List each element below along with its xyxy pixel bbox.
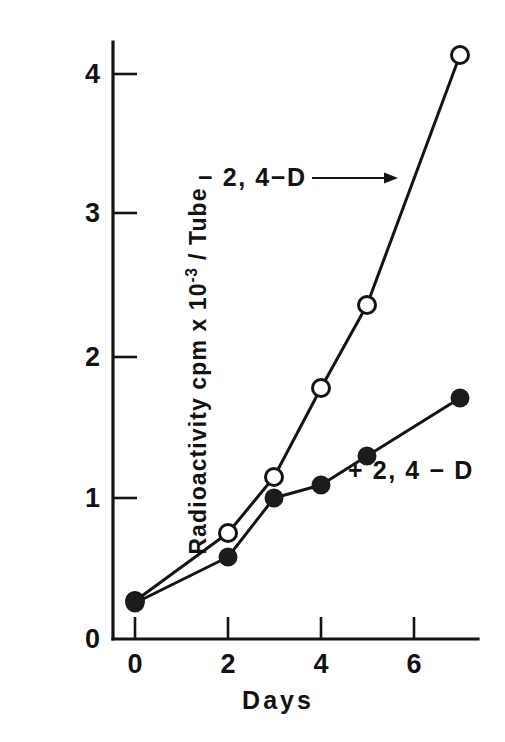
data-point-filled (266, 490, 283, 507)
y-axis-title: Radioactivity cpm x 10-3 / Tube (183, 187, 212, 554)
y-tick-label-4: 4 (85, 59, 100, 90)
y-tick-label-1: 1 (85, 483, 100, 514)
y-axis-title-exponent: -3 (183, 268, 200, 283)
data-point-filled (452, 390, 469, 407)
y-tick-label-2: 2 (85, 342, 100, 373)
series-label-minus-2-4-d: − 2, 4−D (198, 163, 307, 192)
y-axis-title-main: Radioactivity cpm x 10 (185, 282, 211, 554)
data-point-open (313, 380, 330, 397)
axis-lines (113, 42, 478, 639)
y-axis-title-tail: / Tube (185, 187, 211, 267)
x-tick-label-4: 4 (313, 649, 328, 680)
x-tick-label-2: 2 (220, 649, 235, 680)
x-tick-label-6: 6 (406, 649, 421, 680)
data-point-open (220, 525, 237, 542)
y-axis-ticks (113, 74, 137, 498)
series-label-plus-2-4-d: + 2, 4 − D (348, 456, 474, 485)
x-tick-label-0: 0 (127, 649, 142, 680)
x-axis-ticks (135, 617, 414, 639)
series-plus-2-4-d (127, 390, 469, 612)
data-point-filled (313, 477, 330, 494)
data-point-filled (220, 549, 237, 566)
data-point-open (266, 469, 283, 486)
series-minus-2-4-d (127, 47, 469, 610)
x-axis-title: Days (242, 686, 314, 715)
data-point-filled (127, 595, 144, 612)
chart-figure: 4 3 2 1 0 0 2 4 6 Radioactivity cpm x 10… (0, 0, 505, 742)
data-point-open (359, 297, 376, 314)
annotation-arrow-icon (312, 173, 398, 184)
y-tick-label-3: 3 (85, 198, 100, 229)
data-point-open (452, 47, 469, 64)
plot-area (0, 0, 505, 742)
y-tick-label-0: 0 (85, 624, 100, 655)
